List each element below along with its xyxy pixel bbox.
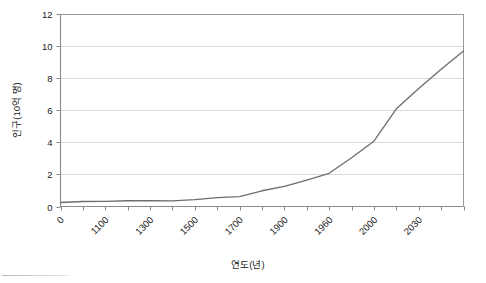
y-axis-title: 인구(10억 명) <box>11 82 22 138</box>
y-tick-label: 2 <box>47 169 52 180</box>
y-tick-label: 10 <box>42 41 53 52</box>
population-line-chart: 024681012 011001300150017001900196020002… <box>0 0 486 283</box>
y-tick-label: 0 <box>47 202 52 213</box>
chart-canvas: 024681012 011001300150017001900196020002… <box>0 0 486 283</box>
chart-background <box>0 0 486 283</box>
footer-divider <box>2 275 68 276</box>
y-tick-label: 6 <box>47 105 52 116</box>
y-tick-label: 8 <box>47 73 52 84</box>
x-axis-title: 연도(년) <box>231 259 264 270</box>
y-tick-label: 12 <box>42 9 53 20</box>
y-tick-label: 4 <box>47 137 52 148</box>
